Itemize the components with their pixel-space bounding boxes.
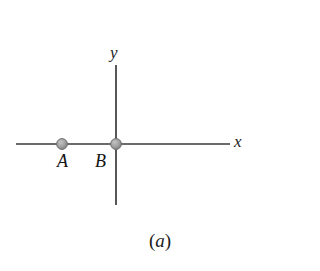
caption-letter: a: [155, 230, 165, 251]
y-axis-label: y: [110, 44, 118, 61]
caption-close-paren: ): [165, 230, 171, 251]
figure-panel-a: y x A B (a): [0, 0, 320, 271]
x-axis-label: x: [234, 133, 242, 150]
figure-caption: (a): [0, 231, 320, 250]
point-marker-a: [57, 139, 68, 150]
point-label-a: A: [57, 152, 68, 170]
point-label-b: B: [95, 152, 106, 170]
point-marker-b: [111, 139, 122, 150]
